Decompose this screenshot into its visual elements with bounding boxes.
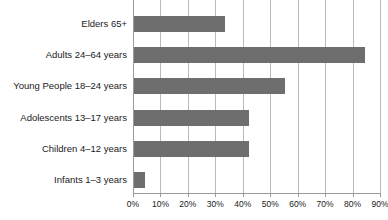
tick-mark: [215, 193, 216, 197]
bar: [134, 172, 145, 188]
tick-mark: [325, 193, 326, 197]
category-label: Adolescents 13–17 years: [0, 110, 127, 126]
tick-mark: [298, 193, 299, 197]
bar: [134, 110, 249, 126]
gridline: [325, 0, 326, 193]
bar: [134, 47, 365, 63]
tick-mark: [270, 193, 271, 197]
bar: [134, 16, 225, 32]
bar: [134, 78, 285, 94]
tick-mark: [188, 193, 189, 197]
tick-mark: [133, 193, 134, 197]
tick-label: 0%: [127, 199, 139, 209]
tick-label: 50%: [262, 199, 279, 209]
x-axis-line: [133, 193, 381, 194]
gridline: [243, 0, 244, 193]
tick-label: 70%: [317, 199, 334, 209]
bar: [134, 141, 249, 157]
gridline: [298, 0, 299, 193]
category-label: Infants 1–3 years: [0, 172, 127, 188]
plot-area: [133, 0, 380, 193]
gridline: [353, 0, 354, 193]
tick-mark: [243, 193, 244, 197]
gridline: [380, 0, 381, 193]
category-label: Young People 18–24 years: [0, 78, 127, 94]
tick-label: 60%: [289, 199, 306, 209]
tick-label: 30%: [207, 199, 224, 209]
tick-label: 40%: [234, 199, 251, 209]
tick-label: 10%: [152, 199, 169, 209]
tick-label: 20%: [179, 199, 196, 209]
tick-mark: [353, 193, 354, 197]
category-label: Children 4–12 years: [0, 141, 127, 157]
tick-mark: [160, 193, 161, 197]
bar-chart: Elders 65+ Adults 24–64 years Young Peop…: [0, 0, 388, 220]
category-label: Elders 65+: [0, 16, 127, 32]
gridline: [270, 0, 271, 193]
tick-label: 80%: [344, 199, 361, 209]
tick-mark: [380, 193, 381, 197]
tick-label: 90%: [371, 199, 388, 209]
category-label: Adults 24–64 years: [0, 47, 127, 63]
